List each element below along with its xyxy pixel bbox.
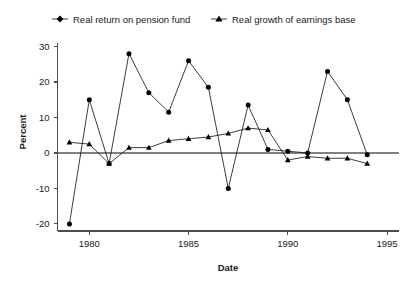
y-tick-label: 30 (39, 41, 50, 52)
data-point-diamond (285, 149, 290, 154)
y-tick-label: 20 (39, 76, 50, 87)
data-point-diamond (87, 97, 92, 102)
series-polyline (69, 128, 367, 163)
y-axis-ticks: -20-100102030 (36, 41, 58, 229)
data-point-diamond (146, 90, 151, 95)
data-point-diamond (226, 186, 231, 191)
legend-label-pension-fund: Real return on pension fund (73, 14, 190, 25)
data-point-triangle (245, 125, 251, 130)
data-point-triangle (67, 139, 73, 144)
y-tick-label: 10 (39, 112, 50, 123)
legend-label-earnings-base: Real growth of earnings base (232, 14, 356, 25)
data-point-diamond (325, 69, 330, 74)
data-point-diamond (67, 221, 72, 226)
chart-canvas: Real return on pension fund Real growth … (0, 0, 413, 284)
y-tick-label: 0 (44, 147, 49, 158)
chart-legend: Real return on pension fund Real growth … (52, 14, 356, 25)
data-point-diamond (345, 97, 350, 102)
y-tick-label: -20 (36, 218, 50, 229)
x-tick-label: 1990 (277, 238, 298, 249)
y-axis-title: Percent (17, 114, 28, 150)
diamond-marker-icon (57, 16, 64, 23)
x-tick-label: 1995 (377, 238, 398, 249)
data-point-diamond (365, 152, 370, 157)
x-tick-label: 1980 (79, 238, 100, 249)
x-tick-label: 1985 (178, 238, 199, 249)
series-diamond (67, 51, 370, 226)
chart-figure: Real return on pension fund Real growth … (0, 0, 413, 284)
data-point-diamond (166, 110, 171, 115)
data-point-diamond (206, 85, 211, 90)
data-point-diamond (186, 58, 191, 63)
data-point-diamond (265, 147, 270, 152)
chart-series (67, 51, 371, 226)
x-axis-ticks: 1980198519901995 (79, 231, 398, 249)
y-tick-label: -10 (36, 183, 50, 194)
data-point-diamond (246, 103, 251, 108)
legend-entry-earnings-base: Real growth of earnings base (211, 14, 356, 25)
data-point-diamond (126, 51, 131, 56)
triangle-marker-icon (215, 15, 222, 21)
x-axis-title: Date (218, 262, 239, 273)
series-polyline (69, 54, 367, 224)
legend-entry-pension-fund: Real return on pension fund (52, 14, 190, 25)
